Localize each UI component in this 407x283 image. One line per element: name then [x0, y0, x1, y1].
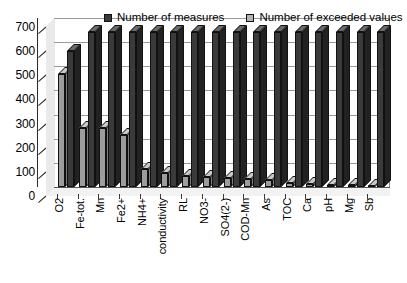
bar-front-face: [129, 32, 136, 187]
y-axis-tick-label: 100: [16, 166, 35, 178]
bar-measures: [233, 32, 240, 187]
x-axis-tick-label: conductivity: [157, 198, 168, 254]
bar-exceeded-values: [265, 180, 272, 187]
bar-side-face: [177, 25, 184, 187]
bar-side-face: [322, 25, 329, 187]
bar-front-face: [233, 32, 240, 187]
bar-measures: [150, 32, 157, 187]
bar-front-face: [244, 179, 251, 187]
bar-front-face: [108, 32, 115, 187]
bar-front-face: [191, 32, 198, 187]
bar-measures: [191, 32, 198, 187]
bar-front-face: [99, 128, 106, 187]
bar-side-face: [364, 25, 371, 187]
legend-item-measures: Number of measures: [104, 12, 224, 23]
x-axis-tick-label: TOC: [282, 198, 293, 221]
bar-exceeded-values: [182, 176, 189, 187]
bar-side-face: [136, 25, 143, 187]
bar-measures: [274, 32, 281, 187]
bar-exceeded-values: [368, 186, 375, 187]
bar-measures: [67, 51, 74, 187]
bar-measures: [357, 32, 364, 187]
bar-chart: 0100200300400500600700 Number of measure…: [0, 0, 407, 283]
bar-side-face: [219, 25, 226, 187]
bar-side-face: [281, 25, 288, 187]
bar-front-face: [306, 184, 313, 187]
bar-side-face: [198, 25, 205, 187]
bar-front-face: [212, 32, 219, 187]
x-axis-tick-label: RL: [178, 198, 189, 212]
bar-side-face: [302, 25, 309, 187]
y-axis-tick-label: 300: [16, 118, 35, 130]
bar-front-face: [357, 32, 364, 187]
x-axis-tick-label: O2: [54, 198, 65, 212]
bar-exceeded-values: [348, 185, 355, 187]
bar-measures: [88, 32, 95, 187]
x-axis-tick-label: NH4+: [137, 198, 148, 226]
bar-side-face: [384, 25, 391, 187]
bar-side-face: [240, 25, 247, 187]
bar-exceeded-values: [99, 128, 106, 187]
bar-exceeded-values: [79, 128, 86, 187]
bar-front-face: [58, 74, 65, 187]
y-axis-tick-label: 200: [16, 142, 35, 154]
y-axis: 0100200300400500600700: [0, 18, 46, 196]
bar-exceeded-values: [141, 169, 148, 187]
bar-side-face: [157, 25, 164, 187]
bar-front-face: [120, 135, 127, 187]
bar-front-face: [182, 176, 189, 187]
bar-exceeded-values: [286, 183, 293, 187]
bar-measures: [212, 32, 219, 187]
bar-front-face: [315, 32, 322, 187]
bar-front-face: [377, 32, 384, 187]
plot-area: [46, 18, 390, 196]
bar-measures: [170, 32, 177, 187]
x-axis-tick-label: Fe-tot.: [75, 198, 86, 229]
bar-exceeded-values: [58, 74, 65, 187]
y-axis-tick-label: 700: [16, 21, 35, 33]
x-axis-tick-label: Mg: [344, 198, 355, 213]
chart-legend: Number of measures Number of exceeded va…: [104, 12, 403, 23]
x-axis-tick-label: Fe2+: [116, 198, 127, 223]
bar-front-face: [79, 128, 86, 187]
legend-label: Number of exceeded values: [259, 12, 402, 23]
bar-exceeded-values: [327, 185, 334, 187]
y-axis-tick-label: 600: [16, 45, 35, 57]
bar-front-face: [150, 32, 157, 187]
bar-exceeded-values: [224, 178, 231, 187]
bar-measures: [253, 32, 260, 187]
bar-front-face: [161, 173, 168, 187]
bar-front-face: [295, 32, 302, 187]
bar-exceeded-values: [161, 173, 168, 187]
legend-swatch-icon: [246, 14, 254, 22]
legend-swatch-icon: [104, 14, 112, 22]
y-axis-tick-label: 400: [16, 93, 35, 105]
legend-item-exceeded-values: Number of exceeded values: [246, 12, 402, 23]
bar-front-face: [336, 32, 343, 187]
x-axis-tick-label: Sb: [364, 198, 375, 211]
y-axis-tick-label: 0: [29, 190, 35, 202]
bar-measures: [295, 32, 302, 187]
bar-front-face: [203, 177, 210, 187]
bar-exceeded-values: [203, 177, 210, 187]
bar-measures: [377, 32, 384, 187]
bar-front-face: [170, 32, 177, 187]
bar-front-face: [274, 32, 281, 187]
bar-front-face: [253, 32, 260, 187]
bar-measures: [129, 32, 136, 187]
bar-measures: [336, 32, 343, 187]
bar-front-face: [141, 169, 148, 187]
legend-label: Number of measures: [117, 12, 224, 23]
bar-side-face: [260, 25, 267, 187]
x-axis-tick-label: As: [261, 198, 272, 211]
bar-front-face: [88, 32, 95, 187]
x-axis-tick-label: pH: [323, 198, 334, 212]
x-axis-tick-label: SO4(2-): [220, 198, 231, 236]
bar-front-face: [224, 178, 231, 187]
x-axis: O2Fe-tot.MnFe2+NH4+conductivityRLNO3-SO4…: [46, 198, 390, 283]
bar-side-face: [343, 25, 350, 187]
bar-measures: [315, 32, 322, 187]
bar-group: [46, 18, 390, 196]
bar-front-face: [286, 183, 293, 187]
bar-front-face: [265, 180, 272, 187]
